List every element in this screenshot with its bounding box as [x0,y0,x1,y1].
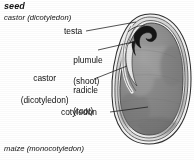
label-cotyledon: cotyledon [61,108,97,117]
label-testa: testa [64,27,82,36]
caption-top: castor (dicotyledon) [4,14,71,22]
label-plumule-line1: plumule [73,55,102,65]
caption-bottom: maize (monocotyledon) [4,145,84,153]
label-specimen-line2: (dicotyledon) [21,95,69,105]
label-radicle-line1: radicle [73,85,98,95]
label-radicle: radicle (root) [64,74,98,127]
seed-diagram-figure: seed castor (dicotyledon) maize (monocot… [0,0,194,160]
label-specimen-line1: castor [33,73,56,83]
figure-title: seed [4,2,25,11]
